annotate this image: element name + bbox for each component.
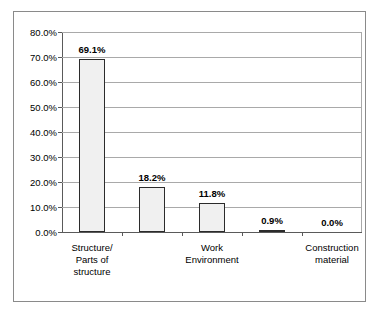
- x-category-label: Constructionmaterial: [305, 242, 358, 266]
- x-tick-mark: [302, 232, 303, 236]
- x-category-label-line: Structure/: [71, 242, 112, 254]
- bar-value-label: 0.9%: [261, 215, 283, 226]
- y-tick-label: 60.0%: [30, 77, 57, 88]
- bar-group[interactable]: 0.0%: [302, 32, 362, 232]
- x-category-label-line: Parts of: [71, 254, 112, 266]
- y-tick-label: 70.0%: [30, 52, 57, 63]
- bar[interactable]: [259, 230, 285, 232]
- y-tick-label: 50.0%: [30, 102, 57, 113]
- bar-group[interactable]: 69.1%: [62, 32, 122, 232]
- y-tick-label: 30.0%: [30, 152, 57, 163]
- x-tick-mark: [242, 232, 243, 236]
- bar[interactable]: [199, 203, 225, 233]
- y-tick-label: 20.0%: [30, 177, 57, 188]
- x-category-label-line: structure: [71, 266, 112, 278]
- x-tick-mark: [182, 232, 183, 236]
- y-tick-label: 40.0%: [30, 127, 57, 138]
- bar[interactable]: [139, 187, 165, 233]
- x-category-label-line: Work: [185, 242, 238, 254]
- x-category-label: Structure/Parts ofstructure: [71, 242, 112, 278]
- bar-value-label: 18.2%: [139, 172, 166, 183]
- bar-group[interactable]: 18.2%: [122, 32, 182, 232]
- x-category-label-line: Environment: [185, 254, 238, 266]
- plot-area: 0.0%10.0%20.0%30.0%40.0%50.0%60.0%70.0%8…: [62, 32, 362, 232]
- x-axis-baseline: [62, 232, 362, 233]
- y-tick-label: 0.0%: [35, 227, 57, 238]
- y-tick-label: 10.0%: [30, 202, 57, 213]
- bar-value-label: 11.8%: [199, 188, 225, 199]
- bar-group[interactable]: 11.8%: [182, 32, 242, 232]
- x-category-label-line: material: [305, 254, 358, 266]
- bar-value-label: 0.0%: [321, 217, 343, 228]
- bar-group[interactable]: 0.9%: [242, 32, 302, 232]
- x-category-label: WorkEnvironment: [185, 242, 238, 266]
- y-tick-mark: [58, 232, 62, 233]
- x-category-label-line: Construction: [305, 242, 358, 254]
- bar[interactable]: [79, 59, 105, 232]
- chart-frame: 0.0%10.0%20.0%30.0%40.0%50.0%60.0%70.0%8…: [13, 11, 366, 302]
- x-tick-mark: [122, 232, 123, 236]
- bar-series: 69.1%18.2%11.8%0.9%0.0%: [62, 32, 362, 232]
- y-tick-label: 80.0%: [30, 27, 57, 38]
- bar-value-label: 69.1%: [79, 44, 106, 55]
